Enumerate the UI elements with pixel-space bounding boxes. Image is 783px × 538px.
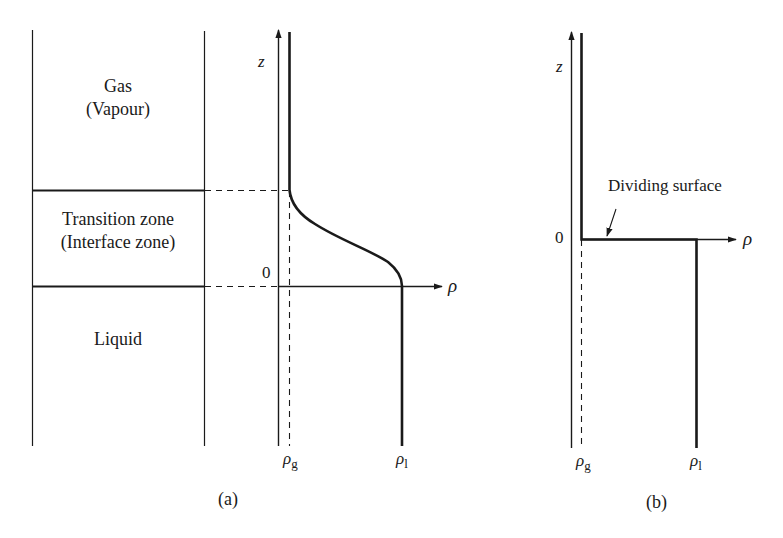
panel-a-plot [278,30,442,446]
step-density-profile [582,33,697,448]
dividing-surface-label: Dividing surface [608,176,722,196]
panel-a-caption: (a) [218,489,238,510]
rho-l-label: ρl [396,449,408,472]
rho-g-label: ρg [576,451,591,474]
gas-label: Gas [32,75,204,98]
dividing-surface-pointer [607,209,616,236]
rho-g-label: ρg [283,449,298,472]
origin-label: 0 [555,228,564,248]
interface-label: (Interface zone) [32,231,204,254]
liquid-zone-label: Liquid [32,328,204,351]
origin-label: 0 [262,263,271,283]
rho-l-label: ρl [690,451,702,474]
transition-zone-label: Transition zone (Interface zone) [32,208,204,254]
panel-b-caption: (b) [646,492,667,513]
gas-zone-label: Gas (Vapour) [32,75,204,121]
transition-label: Transition zone [32,208,204,231]
z-axis-label: z [556,57,563,77]
vapour-label: (Vapour) [32,98,204,121]
rho-axis-label: ρ [743,228,752,250]
rho-axis-label: ρ [448,275,457,297]
density-profile-curve [290,32,403,446]
panel-b-plot [572,32,737,448]
z-axis-label: z [258,52,265,72]
